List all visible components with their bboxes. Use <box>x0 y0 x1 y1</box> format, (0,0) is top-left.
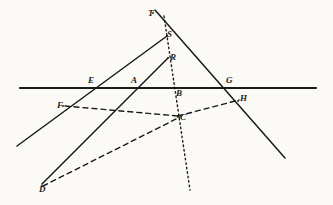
point-marker-c <box>177 116 179 118</box>
point-label-c: C <box>180 113 186 122</box>
point-label-t: T <box>148 9 154 18</box>
point-marker-a <box>136 87 138 89</box>
dashed-segment-C-to-H <box>178 100 239 116</box>
geometry-figure: TSREABGHFCD <box>0 0 333 205</box>
point-label-g: G <box>226 76 233 85</box>
line-through-S-and-E <box>17 36 167 146</box>
point-label-r: R <box>170 53 176 62</box>
point-marker-r <box>167 57 169 59</box>
point-marker-g <box>227 87 229 89</box>
point-marker-h <box>237 100 239 102</box>
point-label-e: E <box>88 76 94 85</box>
dotted-vertical-axis-T-to-bottom <box>164 16 190 190</box>
point-label-f: F <box>57 101 63 110</box>
points-group <box>41 12 239 187</box>
line-from-D-through-A-to-R <box>42 58 168 184</box>
dashed-segment-F-to-C <box>65 106 178 116</box>
point-label-b: B <box>176 89 182 98</box>
point-label-d: D <box>39 185 46 194</box>
point-label-s: S <box>167 30 172 39</box>
point-marker-e <box>94 87 96 89</box>
dashed-segment-D-to-C <box>43 117 180 186</box>
point-label-h: H <box>240 94 247 103</box>
point-label-a: A <box>131 76 137 85</box>
